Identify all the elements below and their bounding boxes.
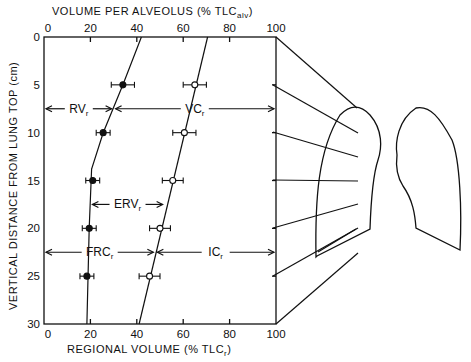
filled-marker xyxy=(86,225,92,231)
figure-caption-fragment xyxy=(0,356,471,362)
x-tick-label-top: 80 xyxy=(223,22,236,34)
x-tick-label-bottom: 0 xyxy=(45,328,51,340)
annotation-label-vc: VCr xyxy=(185,102,205,118)
x-tick-label-top: 0 xyxy=(45,22,51,34)
data-point xyxy=(173,130,196,136)
y-tick-label: 25 xyxy=(27,270,40,282)
data-point xyxy=(183,82,206,88)
projection-lines xyxy=(273,37,358,324)
filled-marker xyxy=(100,130,106,136)
y-tick-label: 0 xyxy=(34,31,40,43)
filled-marker xyxy=(90,178,96,184)
x-tick-label-top: 60 xyxy=(177,22,190,34)
x-tick-label-bottom: 80 xyxy=(223,328,236,340)
data-point xyxy=(139,273,160,279)
y-tick-label: 30 xyxy=(27,318,40,330)
filled-marker xyxy=(84,273,90,279)
data-point xyxy=(162,178,183,184)
data-point xyxy=(150,225,171,231)
x-tick-label-bottom: 20 xyxy=(84,328,97,340)
annotation-label-frc: FRCr xyxy=(86,245,114,261)
x-tick-label-bottom: 40 xyxy=(130,328,143,340)
annotation-label-rv: RVr xyxy=(69,102,88,118)
data-point xyxy=(80,273,94,279)
x-tick-label-top: 20 xyxy=(84,22,97,34)
y-tick-label: 5 xyxy=(34,79,40,91)
open-marker xyxy=(181,130,187,136)
y-tick-label: 10 xyxy=(27,127,40,139)
open-marker xyxy=(157,225,163,231)
filled-marker xyxy=(120,82,126,88)
y-tick-label: 15 xyxy=(27,175,40,187)
lung-right-base-inner xyxy=(318,229,356,252)
top-axis-title: VOLUME PER ALVEOLUS (% TLCalv) xyxy=(52,5,253,20)
x-tick-label-top: 40 xyxy=(130,22,143,34)
y-tick-label: 20 xyxy=(27,222,40,234)
lung-volume-chart: VOLUME PER ALVEOLUS (% TLCalv) REGIONAL … xyxy=(0,0,471,362)
plot-frame xyxy=(44,37,276,324)
axis-ticks: 002020404060608080100100051015202530 xyxy=(27,22,285,340)
lung-right-outline xyxy=(316,107,381,257)
plot-border xyxy=(44,37,276,324)
open-marker xyxy=(147,273,153,279)
annotation-label-ic: ICr xyxy=(208,245,223,261)
data-point xyxy=(96,130,110,136)
annotation-label-erv: ERVr xyxy=(114,197,141,213)
x-tick-label-bottom: 60 xyxy=(177,328,190,340)
data-point xyxy=(111,82,134,88)
lung-left-outline xyxy=(396,108,460,250)
fit-lines xyxy=(87,37,208,324)
x-tick-label-bottom: 100 xyxy=(266,328,285,340)
open-marker xyxy=(170,178,176,184)
data-point xyxy=(86,178,100,184)
y-axis-title: VERTICAL DISTANCE FROM LUNG TOP (cm) xyxy=(7,62,19,310)
x-tick-label-top: 100 xyxy=(266,22,285,34)
data-point xyxy=(82,225,96,231)
open-marker xyxy=(192,82,198,88)
